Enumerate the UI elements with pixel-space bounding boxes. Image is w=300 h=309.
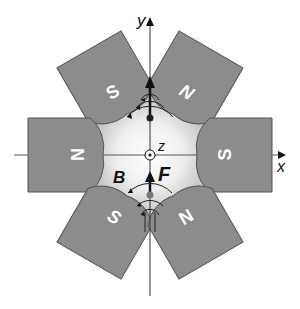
particle-bottom xyxy=(147,192,154,199)
y-axis-label: y xyxy=(137,11,146,31)
particle-top xyxy=(147,115,154,122)
z-axis-label: z xyxy=(158,138,165,154)
y-axis-arrow-icon xyxy=(146,17,154,26)
z-axis-out-of-page-icon xyxy=(145,150,155,160)
field-label: B xyxy=(113,168,125,188)
x-axis-label: x xyxy=(277,158,285,176)
pole-label-right: S xyxy=(215,148,236,160)
force-label: F xyxy=(158,163,170,186)
pole-label-left: N xyxy=(66,148,87,161)
hexapole-diagram xyxy=(0,0,300,309)
